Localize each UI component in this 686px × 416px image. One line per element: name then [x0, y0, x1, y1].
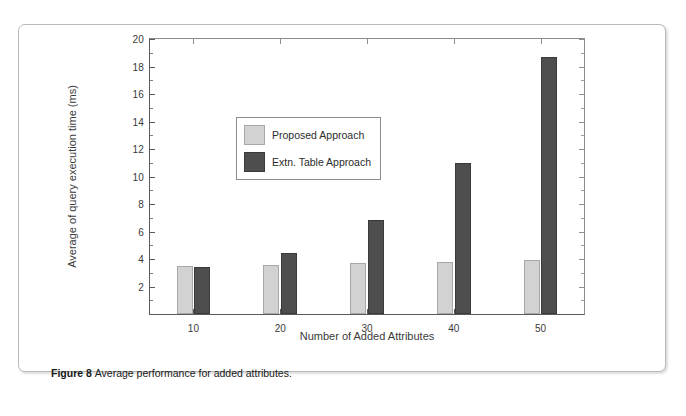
y-tick-mark	[150, 122, 155, 123]
bar-10-series-1	[194, 267, 210, 314]
y-minor-tick-mark-right	[581, 135, 584, 136]
y-minor-tick-mark-right	[581, 108, 584, 109]
bar-20-series-1	[281, 253, 297, 314]
y-minor-tick-mark-right	[581, 245, 584, 246]
y-minor-tick-mark	[150, 108, 153, 109]
y-minor-tick-mark-right	[581, 300, 584, 301]
bar-50-series-1	[541, 57, 557, 314]
y-tick-mark-right	[579, 232, 584, 233]
y-minor-tick-mark-right	[581, 80, 584, 81]
figure-caption-text: Average performance for added attributes…	[95, 367, 292, 379]
y-tick-mark-right	[579, 149, 584, 150]
y-tick-mark-right	[579, 204, 584, 205]
y-minor-tick-mark-right	[581, 163, 584, 164]
x-tick-mark-top	[367, 39, 368, 44]
y-minor-tick-mark	[150, 80, 153, 81]
x-tick-mark-top	[541, 39, 542, 44]
y-tick-mark-right	[579, 287, 584, 288]
y-tick-label: 6	[138, 226, 144, 237]
y-tick-mark-right	[579, 67, 584, 68]
y-tick-mark	[150, 259, 155, 260]
y-minor-tick-mark	[150, 245, 153, 246]
legend-swatch-extn-table-approach	[244, 152, 265, 172]
y-tick-label: 12	[132, 144, 144, 155]
bar-30-series-0	[350, 263, 366, 314]
y-tick-mark-right	[579, 259, 584, 260]
legend-label-proposed-approach: Proposed Approach	[272, 129, 364, 141]
y-tick-label: 14	[132, 116, 144, 127]
y-tick-mark	[150, 177, 155, 178]
y-minor-tick-mark-right	[581, 53, 584, 54]
bar-20-series-0	[263, 265, 279, 314]
figure-caption: Figure 8 Average performance for added a…	[51, 367, 292, 379]
y-minor-tick-mark-right	[581, 218, 584, 219]
y-tick-mark-right	[579, 94, 584, 95]
figure-card: 2468101214161820 1020304050 Proposed App…	[18, 24, 666, 372]
y-tick-mark	[150, 94, 155, 95]
y-minor-tick-mark	[150, 218, 153, 219]
figure-caption-label: Figure 8	[51, 367, 92, 379]
y-tick-mark-right	[579, 177, 584, 178]
y-tick-label: 2	[138, 281, 144, 292]
bar-40-series-0	[437, 262, 453, 314]
x-tick-mark-top	[454, 39, 455, 44]
x-axis-title: Number of Added Attributes	[149, 330, 585, 342]
bar-30-series-1	[368, 220, 384, 314]
y-tick-mark	[150, 67, 155, 68]
legend-label-extn-table-approach: Extn. Table Approach	[272, 156, 371, 168]
y-tick-mark	[150, 39, 155, 40]
bar-10-series-0	[177, 266, 193, 314]
y-minor-tick-mark	[150, 163, 153, 164]
chart-plot-area: 2468101214161820 1020304050 Proposed App…	[149, 38, 585, 315]
y-tick-label: 18	[132, 61, 144, 72]
y-tick-label: 16	[132, 89, 144, 100]
bar-50-series-0	[524, 260, 540, 314]
y-tick-label: 8	[138, 199, 144, 210]
x-tick-mark-top	[280, 39, 281, 44]
legend-swatch-proposed-approach	[244, 125, 265, 145]
x-tick-mark-top	[193, 39, 194, 44]
y-minor-tick-mark	[150, 273, 153, 274]
y-tick-label: 10	[132, 171, 144, 182]
y-tick-mark	[150, 287, 155, 288]
y-minor-tick-mark-right	[581, 190, 584, 191]
bar-40-series-1	[455, 163, 471, 314]
y-minor-tick-mark	[150, 53, 153, 54]
chart-legend: Proposed Approach Extn. Table Approach	[236, 117, 381, 180]
y-minor-tick-mark-right	[581, 273, 584, 274]
y-tick-label: 4	[138, 254, 144, 265]
y-tick-mark	[150, 232, 155, 233]
y-tick-mark-right	[579, 122, 584, 123]
y-tick-label: 20	[132, 34, 144, 45]
y-axis-title: Average of query execution time (ms)	[63, 38, 81, 315]
y-minor-tick-mark	[150, 300, 153, 301]
y-tick-mark-right	[579, 39, 584, 40]
y-minor-tick-mark	[150, 190, 153, 191]
y-tick-mark	[150, 149, 155, 150]
legend-item-extn-table-approach: Extn. Table Approach	[244, 152, 371, 172]
legend-item-proposed-approach: Proposed Approach	[244, 125, 371, 145]
y-tick-mark	[150, 204, 155, 205]
y-minor-tick-mark	[150, 135, 153, 136]
